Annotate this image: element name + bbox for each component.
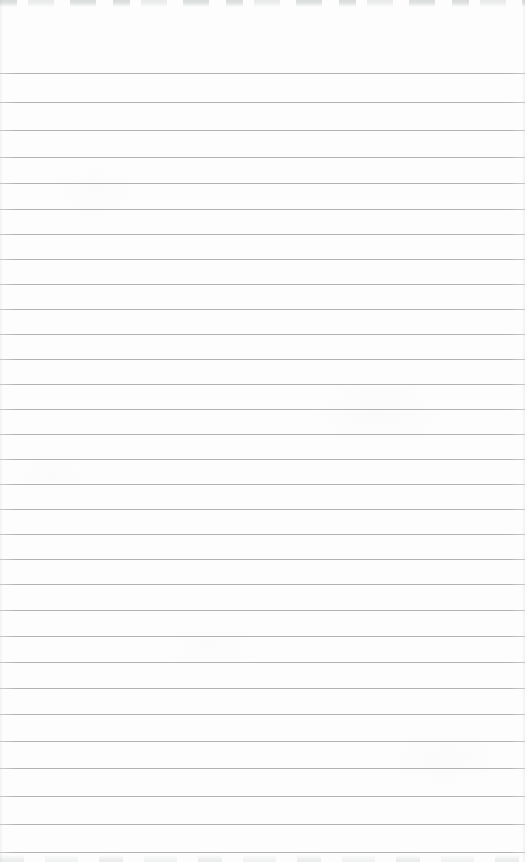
ruled-line — [0, 714, 525, 715]
ruled-line — [0, 768, 525, 769]
ruled-line — [0, 852, 525, 853]
ruled-line — [0, 509, 525, 510]
ruled-line — [0, 157, 525, 158]
ruled-line — [0, 636, 525, 637]
ruled-line — [0, 434, 525, 435]
ruled-line — [0, 559, 525, 560]
ruled-line — [0, 209, 525, 210]
ruled-line — [0, 130, 525, 131]
ruled-line — [0, 796, 525, 797]
ruled-line — [0, 334, 525, 335]
ruled-line — [0, 741, 525, 742]
ruled-line — [0, 688, 525, 689]
ruled-line — [0, 610, 525, 611]
ruled-line — [0, 259, 525, 260]
ruled-line — [0, 284, 525, 285]
ruled-line — [0, 584, 525, 585]
ruled-line — [0, 409, 525, 410]
page-left-edge-shadow — [0, 0, 3, 862]
notebook-page — [0, 0, 525, 862]
ruled-line — [0, 662, 525, 663]
ruled-line — [0, 234, 525, 235]
ruled-line — [0, 534, 525, 535]
ruled-line — [0, 73, 525, 74]
ruled-line — [0, 309, 525, 310]
ruled-line — [0, 459, 525, 460]
ruled-lines-container — [0, 0, 525, 862]
ruled-line — [0, 824, 525, 825]
ruled-line — [0, 484, 525, 485]
ruled-line — [0, 359, 525, 360]
ruled-line — [0, 102, 525, 103]
ruled-line — [0, 183, 525, 184]
ruled-line — [0, 384, 525, 385]
paper-bottom-edge — [0, 855, 525, 862]
